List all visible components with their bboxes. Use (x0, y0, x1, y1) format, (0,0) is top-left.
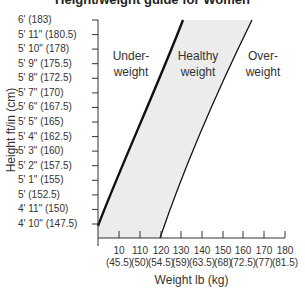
x-tick-lb: 180 (270, 245, 300, 257)
region-label-line: weight (173, 64, 223, 80)
y-tick-label: 5' 11" (180.5) (18, 29, 77, 40)
y-tick-label: 5' 3" (160) (18, 145, 63, 156)
y-tick-label: 5' 10" (178) (18, 43, 69, 54)
height-weight-chart: Height/weight guide for Women (0, 0, 305, 296)
underweight-label: Under- weight (108, 48, 154, 80)
y-ticks (92, 20, 98, 224)
region-label-line: Over- (240, 48, 286, 64)
region-label-line: Under- (108, 48, 154, 64)
y-tick-label: 5' 7" (170) (18, 87, 63, 98)
y-tick-label: 5' 1" (155) (18, 174, 63, 185)
overweight-label: Over- weight (240, 48, 286, 80)
y-tick-label: 4' 10" (147.5) (18, 218, 77, 229)
y-tick-label: 4' 11" (150) (18, 203, 68, 214)
y-axis-label: Height ft/in (cm) (4, 68, 18, 192)
region-label-line: weight (240, 64, 286, 80)
region-label-line: weight (108, 64, 154, 80)
x-axis-label: Weight lb (kg) (98, 273, 285, 287)
y-tick-label: 5' (152.5) (18, 189, 60, 200)
y-tick-label: 5' 9" (175.5) (18, 58, 72, 69)
y-tick-label: 5' 8" (172.5) (18, 72, 72, 83)
y-tick-label: 6' (183) (18, 14, 52, 25)
region-label-line: Healthy (173, 48, 223, 64)
y-tick-label: 5' 2" (157.5) (18, 160, 72, 171)
x-tick-kg: (81.5) (270, 257, 300, 269)
y-tick-label: 5' 6" (167.5) (18, 101, 72, 112)
y-tick-label: 5' 4" (162.5) (18, 131, 72, 142)
x-tick-label: 180(81.5) (270, 245, 300, 269)
healthy-weight-label: Healthy weight (173, 48, 223, 80)
y-tick-label: 5' 5" (165) (18, 116, 63, 127)
